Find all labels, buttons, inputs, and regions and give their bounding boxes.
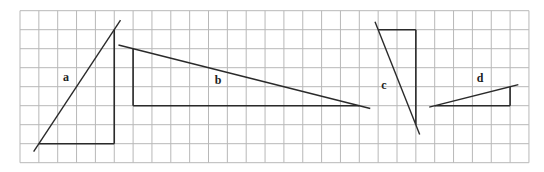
grid (20, 11, 529, 163)
triangles: abcd (34, 20, 519, 151)
hypotenuse-line (429, 85, 518, 107)
triangle-label: d (477, 71, 484, 85)
grid-diagram: abcd (0, 0, 544, 172)
hypotenuse-line (118, 45, 370, 108)
hypotenuse-line (34, 20, 121, 151)
triangle-label: c (381, 78, 387, 92)
triangle-label: b (215, 73, 222, 87)
triangle-b: b (118, 45, 370, 108)
triangle-label: a (63, 70, 69, 84)
triangle-d: d (429, 71, 518, 107)
triangle-a: a (34, 20, 121, 151)
